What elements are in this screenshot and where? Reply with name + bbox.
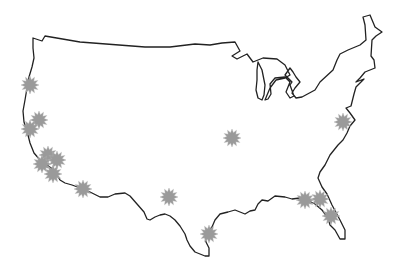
starburst-icon[interactable] — [160, 188, 178, 206]
starburst-icon[interactable] — [21, 76, 39, 94]
starburst-icon[interactable] — [223, 129, 241, 147]
lake-michigan-outline — [256, 62, 265, 100]
starburst-icon[interactable] — [200, 225, 218, 243]
starburst-icon[interactable] — [74, 180, 92, 198]
marker-layer — [21, 76, 352, 243]
starburst-icon[interactable] — [296, 191, 314, 209]
starburst-icon[interactable] — [322, 207, 340, 225]
us-map — [0, 0, 400, 265]
